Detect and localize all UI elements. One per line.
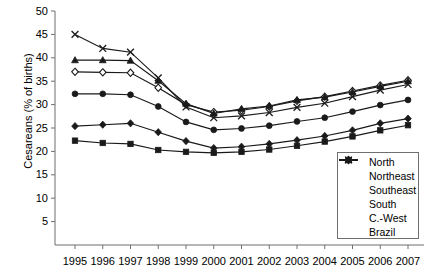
data-point-filled-square bbox=[100, 140, 105, 145]
data-point-filled-circle bbox=[183, 119, 189, 125]
data-point-filled-square bbox=[239, 149, 244, 154]
legend-item-brazil[interactable]: Brazil bbox=[338, 225, 418, 239]
y-tick-label: 10 bbox=[22, 193, 48, 204]
data-point-filled-diamond bbox=[183, 138, 190, 145]
legend-marker-icon bbox=[344, 225, 368, 239]
data-point-filled-square bbox=[72, 138, 77, 143]
legend-item-c-west[interactable]: C.-West bbox=[338, 211, 418, 225]
cesarean-rate-line-chart: Cesareans (% of births) 5045403530252015… bbox=[0, 0, 434, 279]
data-point-filled-square bbox=[294, 143, 299, 148]
data-point-filled-circle bbox=[346, 157, 352, 163]
data-point-filled-diamond bbox=[377, 120, 384, 127]
data-point-filled-diamond bbox=[72, 123, 79, 130]
data-point-open-diamond bbox=[155, 84, 162, 91]
chart-legend: NorthNortheastSoutheastSouthC.-WestBrazi… bbox=[337, 152, 419, 239]
data-point-filled-circle bbox=[350, 109, 356, 115]
data-point-filled-square bbox=[128, 141, 133, 146]
data-point-open-diamond bbox=[72, 68, 79, 75]
data-point-filled-square bbox=[350, 134, 355, 139]
x-tick-label: 2007 bbox=[388, 256, 428, 267]
data-point-filled-square bbox=[405, 122, 410, 127]
series-north bbox=[72, 115, 412, 152]
data-point-filled-circle bbox=[100, 91, 106, 97]
data-point-open-diamond bbox=[127, 69, 134, 76]
data-point-filled-square bbox=[183, 149, 188, 154]
y-tick-label: 35 bbox=[22, 76, 48, 87]
legend-item-label: Southeast bbox=[369, 185, 416, 196]
y-tick-label: 40 bbox=[22, 52, 48, 63]
data-point-filled-diamond bbox=[349, 127, 356, 134]
y-tick-label: 20 bbox=[22, 146, 48, 157]
legend-item-south[interactable]: South bbox=[338, 197, 418, 211]
y-tick-label: 25 bbox=[22, 123, 48, 134]
legend-item-label: South bbox=[369, 199, 396, 210]
data-point-filled-diamond bbox=[155, 129, 162, 136]
legend-marker-icon bbox=[344, 197, 368, 211]
y-tick-label: 5 bbox=[22, 216, 48, 227]
y-tick-label: 30 bbox=[22, 99, 48, 110]
data-point-filled-circle bbox=[266, 123, 272, 129]
legend-marker-icon bbox=[344, 211, 368, 225]
legend-marker-icon bbox=[344, 169, 368, 183]
data-point-filled-circle bbox=[294, 119, 300, 125]
data-point-filled-diamond bbox=[99, 121, 106, 128]
data-point-filled-diamond bbox=[405, 115, 412, 122]
data-point-filled-circle bbox=[322, 115, 328, 121]
series-south bbox=[72, 57, 412, 116]
legend-item-label: C.-West bbox=[369, 213, 407, 224]
data-point-cross bbox=[72, 31, 79, 38]
data-point-filled-circle bbox=[211, 127, 217, 133]
data-point-filled-circle bbox=[239, 126, 245, 132]
data-point-open-diamond bbox=[99, 69, 106, 76]
data-point-filled-square bbox=[378, 128, 383, 133]
legend-item-northeast[interactable]: Northeast bbox=[338, 169, 418, 183]
data-point-filled-circle bbox=[72, 91, 78, 97]
data-point-filled-circle bbox=[155, 104, 161, 110]
data-point-filled-circle bbox=[377, 102, 383, 108]
legend-item-label: Northeast bbox=[369, 171, 415, 182]
legend-marker-icon bbox=[344, 183, 368, 197]
data-point-filled-square bbox=[211, 150, 216, 155]
data-point-filled-square bbox=[322, 139, 327, 144]
data-point-filled-diamond bbox=[127, 120, 134, 127]
data-point-filled-square bbox=[156, 147, 161, 152]
legend-item-label: North bbox=[369, 157, 395, 168]
data-point-filled-circle bbox=[128, 92, 134, 98]
legend-item-southeast[interactable]: Southeast bbox=[338, 183, 418, 197]
y-tick-label: 45 bbox=[22, 29, 48, 40]
legend-item-label: Brazil bbox=[369, 227, 395, 238]
y-tick-label: 15 bbox=[22, 169, 48, 180]
data-point-filled-square bbox=[267, 147, 272, 152]
y-tick-label: 50 bbox=[22, 6, 48, 17]
data-point-filled-circle bbox=[405, 97, 411, 103]
